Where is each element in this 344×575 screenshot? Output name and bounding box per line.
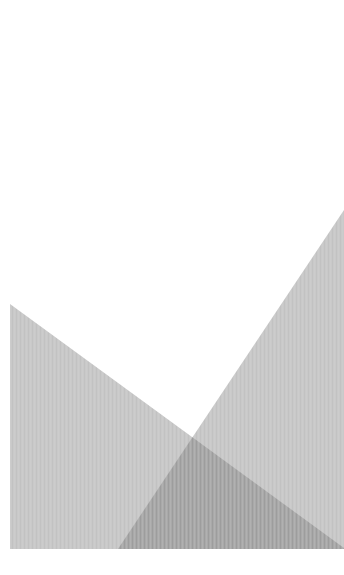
artwork-canvas [0,0,344,575]
